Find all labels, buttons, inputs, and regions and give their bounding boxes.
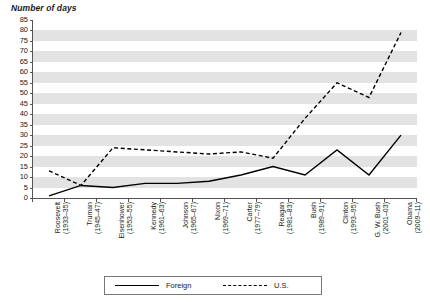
y-axis-tick-label: 25 xyxy=(20,142,28,150)
x-axis-tick-label: Roosevelt(1933–35) xyxy=(54,202,70,270)
x-axis-tick-label: Johnson(1965–67) xyxy=(182,202,198,270)
x-label-line-1: Bush xyxy=(310,202,317,218)
x-label-line-2: (1981–83) xyxy=(286,202,294,270)
y-axis-tick-label: 55 xyxy=(20,79,28,87)
legend-swatch-us-dashed-line xyxy=(223,285,267,286)
x-axis-tick-label: Truman(1945–47) xyxy=(86,202,102,270)
y-axis-tick-label: 45 xyxy=(20,100,28,108)
series-line-layer xyxy=(33,20,417,198)
y-axis-tick-label: 20 xyxy=(20,152,28,160)
y-axis-tick-label: 10 xyxy=(20,173,28,181)
x-label-line-2: (1993–95) xyxy=(350,202,358,270)
x-label-line-1: Kennedy xyxy=(150,202,157,230)
x-label-line-2: (1977–79) xyxy=(254,202,262,270)
y-axis-tick-label: 60 xyxy=(20,68,28,76)
x-axis-tick-label: Kennedy(1961–63) xyxy=(150,202,166,270)
x-label-line-2: (2001–03) xyxy=(382,202,390,270)
x-axis-tick-label: Reagan(1981–83) xyxy=(278,202,294,270)
x-axis-tick-label: G. W. Bush(2001–03) xyxy=(374,202,390,270)
x-label-line-1: G. W. Bush xyxy=(374,202,381,237)
plot-area xyxy=(32,20,417,199)
x-label-line-2: (1969–71) xyxy=(222,202,230,270)
legend-item-us: U.S. xyxy=(223,277,289,294)
y-axis-tick-label: 40 xyxy=(20,110,28,118)
x-axis-tick-label: Obama(2009–11) xyxy=(406,202,422,270)
x-axis-tick-label: Carter(1977–79) xyxy=(246,202,262,270)
y-axis-tick-label: 15 xyxy=(20,163,28,171)
y-axis-tick-label: 75 xyxy=(20,37,28,45)
x-axis-tick-label: Nixon(1969–71) xyxy=(214,202,230,270)
y-axis-tick-label: 70 xyxy=(20,47,28,55)
y-axis-tick-label: 80 xyxy=(20,26,28,34)
chart-legend: Foreign U.S. xyxy=(104,276,322,295)
series-line-foreign xyxy=(49,135,401,196)
y-axis-title: Number of days xyxy=(11,3,77,13)
x-label-line-1: Carter xyxy=(246,202,253,221)
chart-container: Number of days 0510152025303540455055606… xyxy=(0,0,430,302)
x-label-line-2: (1933–35) xyxy=(62,202,70,270)
x-label-line-1: Johnson xyxy=(182,202,189,228)
x-label-line-2: (1953–55) xyxy=(126,202,134,270)
x-label-line-2: (1961–63) xyxy=(158,202,166,270)
legend-label-foreign: Foreign xyxy=(166,281,191,290)
x-axis-tick-label: Clinton(1993–95) xyxy=(342,202,358,270)
y-axis-tick-label: 50 xyxy=(20,89,28,97)
series-line-us xyxy=(49,33,401,186)
x-label-line-1: Nixon xyxy=(214,202,221,220)
x-label-line-2: (1989–91) xyxy=(318,202,326,270)
x-label-line-1: Clinton xyxy=(342,202,349,224)
legend-item-foreign: Foreign xyxy=(115,277,191,294)
x-axis-label-group: Roosevelt(1933–35)Truman(1945–47)Eisenho… xyxy=(32,202,416,270)
x-label-line-1: Roosevelt xyxy=(54,202,61,233)
x-label-line-2: (1965–67) xyxy=(190,202,198,270)
x-label-line-1: Truman xyxy=(86,202,93,226)
y-axis-tick-label: 5 xyxy=(24,184,28,192)
x-label-line-1: Reagan xyxy=(278,202,285,227)
x-label-line-2: (1945–47) xyxy=(94,202,102,270)
y-axis-tick-label: 85 xyxy=(20,16,28,24)
x-label-line-1: Obama xyxy=(406,202,413,225)
y-axis-tick-label: 65 xyxy=(20,58,28,66)
x-axis-tick-label: Bush(1989–91) xyxy=(310,202,326,270)
x-label-line-1: Eisenhower xyxy=(118,202,125,239)
y-axis-tick-group: 0510152025303540455055606570758085 xyxy=(0,20,32,198)
y-axis-tick-label: 35 xyxy=(20,121,28,129)
legend-swatch-foreign-solid-line xyxy=(115,285,159,287)
x-axis-tick-label: Eisenhower(1953–55) xyxy=(118,202,134,270)
legend-label-us: U.S. xyxy=(274,281,289,290)
x-label-line-2: (2009–11) xyxy=(414,202,422,270)
y-axis-tick-label: 30 xyxy=(20,131,28,139)
y-axis-tick-label: 0 xyxy=(24,194,28,202)
